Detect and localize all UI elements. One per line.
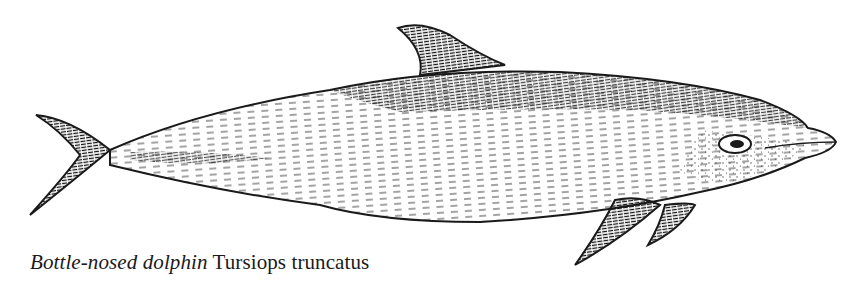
tail-fluke <box>30 115 110 215</box>
dorsal-fin <box>398 25 505 75</box>
figure-caption: Bottle-nosed dolphin Tursiops truncatus <box>30 250 369 275</box>
common-name: Bottle-nosed dolphin <box>30 250 208 274</box>
scientific-name: Tursiops truncatus <box>213 250 370 274</box>
